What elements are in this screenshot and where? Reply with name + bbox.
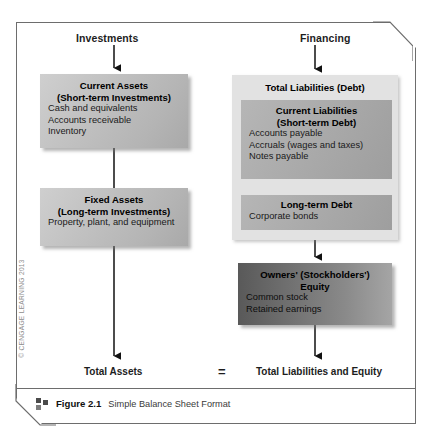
total-liabilities-title: Total Liabilities (Debt): [232, 82, 398, 93]
balance-sheet-figure: Investments Financing Current Assets (Sh…: [0, 0, 433, 439]
current-assets-title-2: (Short-term Investments): [48, 92, 180, 104]
current-liabilities-item-3: Notes payable: [249, 151, 384, 162]
current-liabilities-title-2: (Short-term Debt): [249, 117, 384, 129]
box-current-assets: Current Assets (Short-term Investments) …: [40, 74, 188, 148]
total-liabilities-equity-label: Total Liabilities and Equity: [256, 366, 382, 377]
box-owners-equity: Owners' (Stockholders') Equity Common st…: [238, 263, 392, 325]
current-liabilities-item-2: Accruals (wages and taxes): [249, 140, 384, 151]
total-assets-label: Total Assets: [84, 366, 142, 377]
owners-equity-item-1: Common stock: [246, 292, 384, 303]
fixed-assets-title-2: (Long-term Investments): [48, 206, 180, 218]
four-squares-icon: [36, 398, 49, 411]
figure-title: Simple Balance Sheet Format: [108, 399, 230, 409]
current-liabilities-title-1: Current Liabilities: [249, 105, 384, 117]
box-total-liabilities: Total Liabilities (Debt) Current Liabili…: [232, 75, 398, 240]
figure-number: Figure 2.1: [56, 398, 101, 409]
fixed-assets-title-1: Fixed Assets: [48, 194, 180, 206]
caption-divider: [17, 388, 415, 389]
figure-caption: Figure 2.1Simple Balance Sheet Format: [56, 398, 230, 409]
copyright-notice: © CENGAGE LEARNING 2013: [18, 254, 25, 364]
owners-equity-title-1: Owners' (Stockholders'): [246, 269, 384, 281]
owners-equity-title-2: Equity: [246, 281, 384, 293]
box-fixed-assets: Fixed Assets (Long-term Investments) Pro…: [40, 188, 188, 246]
longterm-debt-item-1: Corporate bonds: [249, 211, 384, 222]
fixed-assets-item-1: Property, plant, and equipment: [48, 217, 180, 228]
current-assets-item-3: Inventory: [48, 126, 180, 137]
owners-equity-item-2: Retained earnings: [246, 304, 384, 315]
equals-sign: =: [218, 364, 226, 379]
current-assets-item-1: Cash and equivalents: [48, 103, 180, 114]
current-assets-title-1: Current Assets: [48, 80, 180, 92]
box-current-liabilities: Current Liabilities (Short-term Debt) Ac…: [241, 100, 392, 179]
current-liabilities-item-1: Accounts payable: [249, 128, 384, 139]
longterm-debt-title-1: Long-term Debt: [249, 199, 384, 211]
current-assets-item-2: Accounts receivable: [48, 115, 180, 126]
box-longterm-debt: Long-term Debt Corporate bonds: [241, 195, 392, 230]
